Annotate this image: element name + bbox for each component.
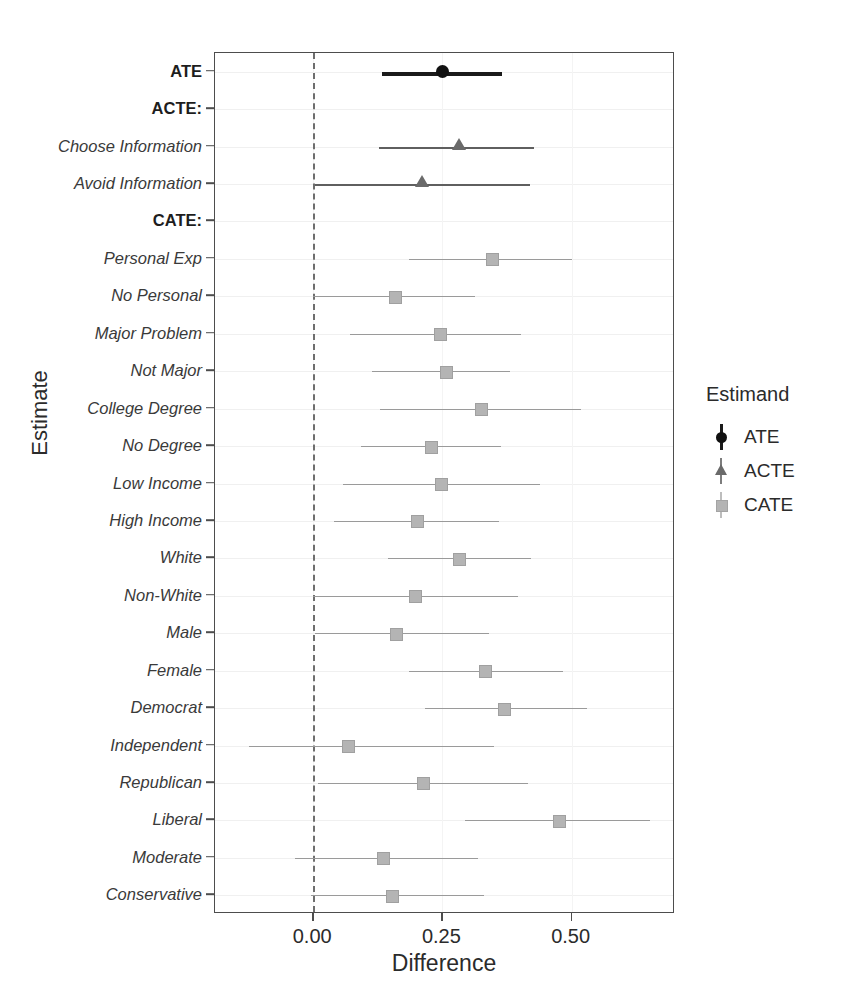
y-axis-tick-mark bbox=[206, 407, 214, 409]
y-axis-tick-label: No Degree bbox=[4, 436, 214, 455]
y-axis-tick-mark bbox=[206, 145, 214, 147]
y-axis-tick-mark bbox=[206, 369, 214, 371]
legend-item-acte[interactable]: ACTE bbox=[706, 454, 836, 488]
y-axis-tick-mark bbox=[206, 744, 214, 746]
x-axis-tick-mark bbox=[441, 913, 443, 921]
y-axis-tick-mark bbox=[206, 295, 214, 297]
y-axis-tick-mark bbox=[206, 70, 214, 72]
legend-key-acte bbox=[706, 456, 736, 486]
y-axis-tick-mark bbox=[206, 781, 214, 783]
point-estimate-marker bbox=[435, 478, 448, 491]
plot-panel bbox=[214, 52, 674, 913]
y-axis-tick-label: Male bbox=[4, 623, 214, 642]
y-axis-tick-mark bbox=[206, 220, 214, 222]
legend: Estimand ATEACTECATE bbox=[706, 383, 836, 522]
y-axis-tick-label: Major Problem bbox=[4, 323, 214, 342]
y-axis-tick-mark bbox=[206, 819, 214, 821]
point-estimate-marker bbox=[452, 138, 466, 150]
point-estimate-marker bbox=[411, 515, 424, 528]
confidence-interval-line bbox=[249, 746, 494, 747]
y-axis-tick-mark bbox=[206, 257, 214, 259]
y-axis-tick-mark bbox=[206, 182, 214, 184]
point-estimate-marker bbox=[417, 777, 430, 790]
point-estimate-marker bbox=[390, 628, 403, 641]
legend-key-cate bbox=[706, 490, 736, 520]
y-axis-tick-label: Not Major bbox=[4, 361, 214, 380]
y-axis-tick-label: Choose Information bbox=[4, 136, 214, 155]
legend-label: CATE bbox=[736, 494, 793, 516]
x-axis-tick-label: 0.25 bbox=[422, 925, 461, 948]
y-axis-tick-label: Personal Exp bbox=[4, 248, 214, 267]
square-marker-icon bbox=[716, 500, 728, 512]
y-axis-tick-label: Avoid Information bbox=[4, 174, 214, 193]
forest-plot-figure: Estimate ATEACTE:Choose InformationAvoid… bbox=[0, 0, 844, 1003]
point-estimate-marker bbox=[434, 328, 447, 341]
y-axis-tick-label: Female bbox=[4, 660, 214, 679]
point-estimate-marker bbox=[415, 175, 429, 187]
y-axis-tick-group: ATEACTE:Choose InformationAvoid Informat… bbox=[0, 0, 214, 1003]
point-estimate-marker bbox=[479, 665, 492, 678]
y-axis-tick-label: Moderate bbox=[4, 847, 214, 866]
y-axis-tick-label: White bbox=[4, 548, 214, 567]
point-estimate-marker bbox=[342, 740, 355, 753]
y-axis-tick-mark bbox=[206, 519, 214, 521]
y-axis-tick-mark bbox=[206, 594, 214, 596]
y-axis-tick-label: Democrat bbox=[4, 698, 214, 717]
y-axis-tick-mark bbox=[206, 332, 214, 334]
x-axis-tick-label: 0.00 bbox=[293, 925, 332, 948]
point-estimate-marker bbox=[389, 291, 402, 304]
y-axis-tick-label: Non-White bbox=[4, 585, 214, 604]
point-estimate-marker bbox=[409, 590, 422, 603]
y-axis-tick-label: Low Income bbox=[4, 473, 214, 492]
triangle-marker-icon bbox=[715, 464, 727, 475]
x-axis-tick-mark bbox=[571, 913, 573, 921]
y-axis-tick-mark bbox=[206, 856, 214, 858]
point-estimate-marker bbox=[377, 852, 390, 865]
point-estimate-marker bbox=[425, 441, 438, 454]
point-estimate-marker bbox=[386, 890, 399, 903]
legend-label: ATE bbox=[736, 426, 780, 448]
gridline-horizontal bbox=[215, 109, 673, 110]
point-estimate-marker bbox=[553, 815, 566, 828]
x-axis-tick-label: 0.50 bbox=[551, 925, 590, 948]
point-estimate-marker bbox=[486, 253, 499, 266]
y-axis-tick-label: Republican bbox=[4, 772, 214, 791]
y-axis-tick-label: High Income bbox=[4, 510, 214, 529]
gridline-vertical bbox=[572, 53, 573, 912]
y-axis-tick-label: ATE bbox=[4, 61, 214, 80]
y-axis-tick-mark bbox=[206, 893, 214, 895]
legend-item-ate[interactable]: ATE bbox=[706, 420, 836, 454]
legend-items: ATEACTECATE bbox=[706, 420, 836, 522]
legend-item-cate[interactable]: CATE bbox=[706, 488, 836, 522]
y-axis-tick-mark bbox=[206, 557, 214, 559]
y-axis-tick-label: CATE: bbox=[4, 211, 214, 230]
gridline-horizontal bbox=[215, 221, 673, 222]
x-axis-title: Difference bbox=[214, 950, 674, 977]
legend-label: ACTE bbox=[736, 460, 795, 482]
zero-reference-line bbox=[313, 53, 315, 912]
point-estimate-marker bbox=[440, 366, 453, 379]
point-estimate-marker bbox=[453, 553, 466, 566]
circle-marker-icon bbox=[716, 432, 727, 443]
y-axis-tick-label: Conservative bbox=[4, 885, 214, 904]
y-axis-tick-mark bbox=[206, 482, 214, 484]
legend-title: Estimand bbox=[706, 383, 836, 406]
x-axis-tick-mark bbox=[312, 913, 314, 921]
y-axis-tick-label: Independent bbox=[4, 735, 214, 754]
y-axis-tick-mark bbox=[206, 706, 214, 708]
y-axis-tick-mark bbox=[206, 631, 214, 633]
y-axis-tick-mark bbox=[206, 669, 214, 671]
y-axis-tick-label: No Personal bbox=[4, 286, 214, 305]
y-axis-tick-label: ACTE: bbox=[4, 99, 214, 118]
y-axis-tick-label: Liberal bbox=[4, 810, 214, 829]
y-axis-tick-label: College Degree bbox=[4, 398, 214, 417]
y-axis-tick-mark bbox=[206, 107, 214, 109]
point-estimate-marker bbox=[498, 703, 511, 716]
point-estimate-marker bbox=[475, 403, 488, 416]
legend-key-ate bbox=[706, 422, 736, 452]
y-axis-tick-mark bbox=[206, 444, 214, 446]
point-estimate-marker bbox=[436, 65, 449, 78]
